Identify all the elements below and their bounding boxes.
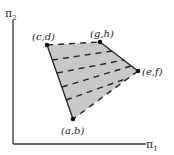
vertex-ef bbox=[136, 69, 141, 74]
vertex-label-gh: (g,h) bbox=[90, 28, 114, 39]
vertex-label-ef: (e,f) bbox=[142, 66, 163, 77]
vertex-ab bbox=[71, 117, 76, 122]
vertex-gh bbox=[98, 40, 103, 45]
x-axis-label: π1 bbox=[146, 138, 158, 153]
vertex-cd bbox=[45, 43, 50, 48]
y-axis-label: π2 bbox=[5, 7, 17, 22]
vertex-label-ab: (a,b) bbox=[61, 125, 84, 136]
feasible-region-diagram: π2 π1 (a,b) (c,d) (g,h) (e,f) bbox=[0, 0, 174, 155]
vertex-label-cd: (c,d) bbox=[32, 31, 55, 42]
